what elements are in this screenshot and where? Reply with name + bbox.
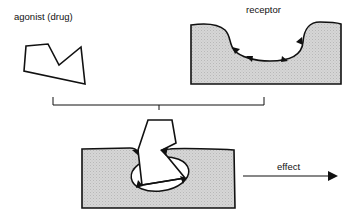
agonist-label: agonist (drug) (14, 11, 73, 22)
binding-site-marker (296, 37, 303, 45)
combine-bracket (53, 97, 264, 110)
effect-arrow (243, 171, 338, 181)
diagram-canvas (0, 0, 359, 222)
receptor-shape (191, 22, 341, 84)
agonist-shape (24, 44, 85, 84)
drug-receptor-complex (82, 120, 235, 208)
effect-label: effect (277, 161, 300, 172)
arrowhead-icon (328, 171, 338, 181)
receptor-label: receptor (246, 4, 281, 15)
